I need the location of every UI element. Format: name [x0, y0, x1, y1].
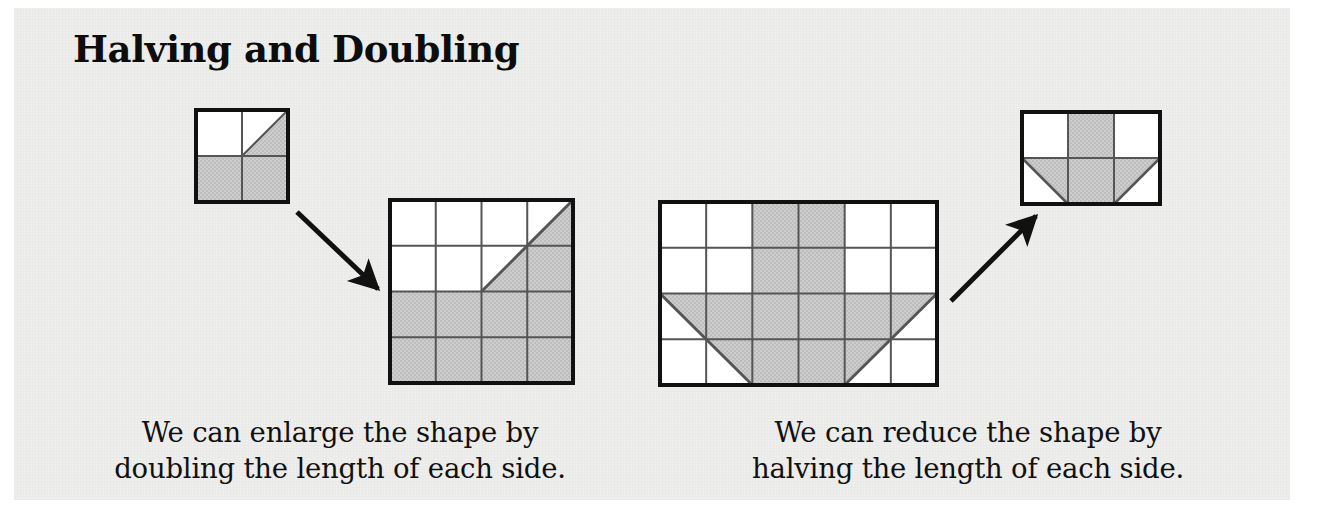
caption-reduce-line2: halving the length of each side.	[718, 450, 1218, 486]
caption-reduce-line1: We can reduce the shape by	[718, 414, 1218, 450]
page-title: Halving and Doubling	[73, 31, 519, 68]
caption-enlarge-line2: doubling the length of each side.	[90, 450, 590, 486]
worksheet-page: Halving and Doubling	[0, 0, 1331, 529]
caption-enlarge-line1: We can enlarge the shape by	[90, 414, 590, 450]
caption-enlarge: We can enlarge the shape by doubling the…	[90, 414, 590, 487]
caption-reduce: We can reduce the shape by halving the l…	[718, 414, 1218, 487]
